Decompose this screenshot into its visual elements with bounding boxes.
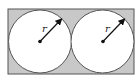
- circles-in-rectangle-diagram: r r: [0, 0, 139, 78]
- right-center-dot: [101, 40, 105, 44]
- right-circle: r: [71, 10, 134, 73]
- left-circle: r: [9, 10, 72, 73]
- left-center-dot: [38, 40, 42, 44]
